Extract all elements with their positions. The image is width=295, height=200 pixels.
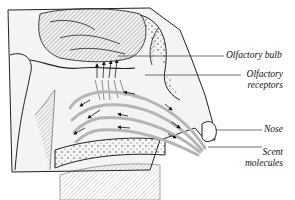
nostril: [202, 122, 216, 142]
label-olfactory-receptors: Olfactory receptors: [247, 69, 283, 91]
nasal-anatomy-illustration: [0, 0, 295, 200]
scent-molecules-line1: Scent: [245, 147, 283, 158]
label-scent-molecules: Scent molecules: [245, 147, 283, 169]
brain: [39, 9, 146, 62]
label-olfactory-bulb: Olfactory bulb: [226, 50, 282, 61]
olfactory-receptors-line1: Olfactory: [247, 69, 283, 80]
nose-text: Nose: [264, 124, 283, 134]
olfactory-bulb-text: Olfactory bulb: [226, 50, 282, 60]
label-nose: Nose: [264, 124, 283, 135]
olfactory-receptors-line2: receptors: [247, 80, 283, 91]
scent-molecules-line2: molecules: [245, 158, 283, 169]
